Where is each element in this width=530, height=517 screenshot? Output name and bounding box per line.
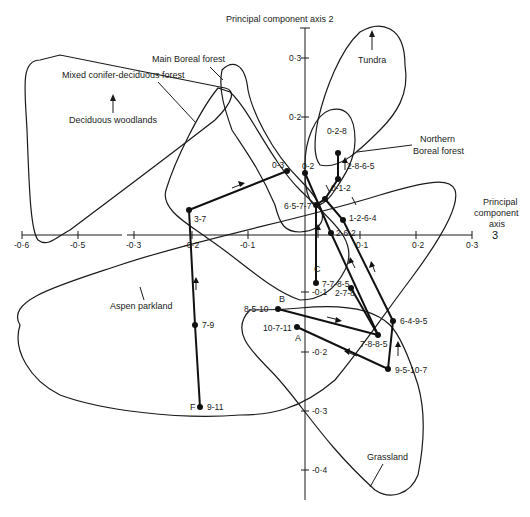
arrow-icon bbox=[369, 30, 375, 37]
x-tick: 0·3 bbox=[466, 240, 479, 250]
region-grassland bbox=[242, 307, 424, 495]
point-label: 7-8-8-5 bbox=[360, 339, 388, 349]
x-axis-title-line4: 3 bbox=[492, 229, 498, 241]
label-main-boreal-forest: Main Boreal forest bbox=[152, 54, 226, 64]
point-letter-c: C bbox=[314, 264, 321, 274]
point-label: 0-3 bbox=[272, 160, 285, 170]
label-grassland: Grassland bbox=[367, 452, 408, 462]
data-points bbox=[186, 150, 396, 410]
point-label: 2-8-6-5 bbox=[347, 161, 375, 171]
y-tick: -0·2 bbox=[312, 347, 327, 357]
label-northern-line2: Boreal forest bbox=[413, 146, 465, 156]
point-label: 1-2-6-4 bbox=[349, 213, 377, 223]
point-label: 6-4-9-5 bbox=[400, 316, 428, 326]
point-label: 9-11 bbox=[207, 402, 224, 412]
x-tick: -0·6 bbox=[14, 240, 29, 250]
region-tundra bbox=[315, 26, 406, 166]
region-aspen-parkland bbox=[18, 182, 456, 416]
x-axis bbox=[22, 231, 472, 239]
x-tick: -0·5 bbox=[70, 240, 85, 250]
label-tundra: Tundra bbox=[358, 55, 386, 65]
pointer-mixed bbox=[158, 82, 196, 123]
trajectory-lines bbox=[189, 153, 393, 407]
point-label: 3-7 bbox=[194, 214, 207, 224]
point-letter-f: F bbox=[190, 402, 196, 412]
label-mixed-conifer-deciduous: Mixed conifer-deciduous forest bbox=[62, 70, 185, 80]
y-tick: 0·2 bbox=[289, 112, 302, 122]
y-axis-title: Principal component axis 2 bbox=[226, 14, 334, 24]
point-label: 0-1-2 bbox=[331, 183, 351, 193]
x-axis-title-line2: component bbox=[474, 208, 519, 218]
point-label: 6·5-7-7 bbox=[284, 201, 312, 211]
arrow-icon bbox=[110, 94, 116, 101]
label-aspen-parkland: Aspen parkland bbox=[110, 301, 173, 311]
x-axis-title-line1: Principal bbox=[483, 197, 518, 207]
point-label: 2-6-2 bbox=[336, 228, 356, 238]
point-label: 7-9 bbox=[202, 320, 215, 330]
point-label: 0-2 bbox=[302, 161, 315, 171]
label-deciduous-woodlands: Deciduous woodlands bbox=[69, 115, 158, 125]
label-northern-line1: Northern bbox=[420, 134, 455, 144]
point-label: 8-5-10 bbox=[244, 304, 269, 314]
pointer-aspen bbox=[140, 287, 144, 300]
pca-diagram: Principal component axis 2 Principal com… bbox=[0, 0, 530, 517]
point-label: 10-7-11 bbox=[263, 323, 292, 333]
x-tick: 0·2 bbox=[412, 240, 425, 250]
point-label: 2-7-8 bbox=[335, 288, 355, 298]
point-letter-b: B bbox=[279, 294, 285, 304]
pointer-grassland bbox=[370, 464, 383, 487]
point-letter-a: A bbox=[295, 333, 301, 343]
y-tick: -0·4 bbox=[312, 465, 327, 475]
point-label: 9-5-10-7 bbox=[395, 365, 427, 375]
y-tick: -0·3 bbox=[312, 406, 327, 416]
x-axis-title-line3: axis bbox=[489, 219, 506, 229]
point-label: 0-2-8 bbox=[327, 126, 347, 136]
y-axis bbox=[300, 28, 310, 500]
y-tick: 0·3 bbox=[289, 53, 302, 63]
x-tick: -0·3 bbox=[126, 240, 141, 250]
x-tick: -0·1 bbox=[240, 240, 255, 250]
pointer-northern bbox=[357, 145, 412, 152]
